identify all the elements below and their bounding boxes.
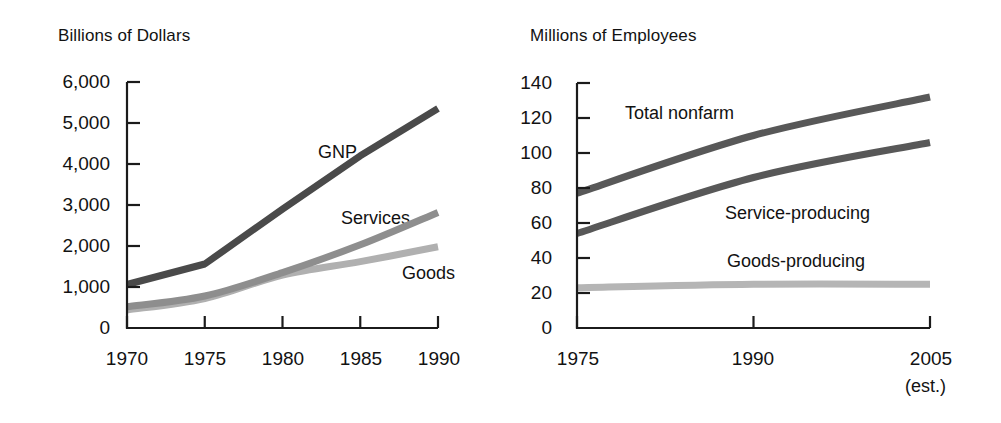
chart-panel-millions-of-employees: Millions of Employees 140 120 100 80 60 … — [500, 0, 1001, 423]
left-chart-final — [0, 0, 500, 423]
series-line-service-producing — [577, 143, 930, 234]
series-line-services — [127, 212, 438, 306]
series-line-goods-producing — [577, 284, 930, 288]
right-chart-plot — [500, 0, 1001, 423]
chart-panel-billions-of-dollars: Billions of Dollars 6,000 5,000 4,000 3,… — [0, 0, 500, 423]
right-axis-spines — [577, 83, 930, 328]
figure-two-line-charts: Billions of Dollars 6,000 5,000 4,000 3,… — [0, 0, 1001, 423]
